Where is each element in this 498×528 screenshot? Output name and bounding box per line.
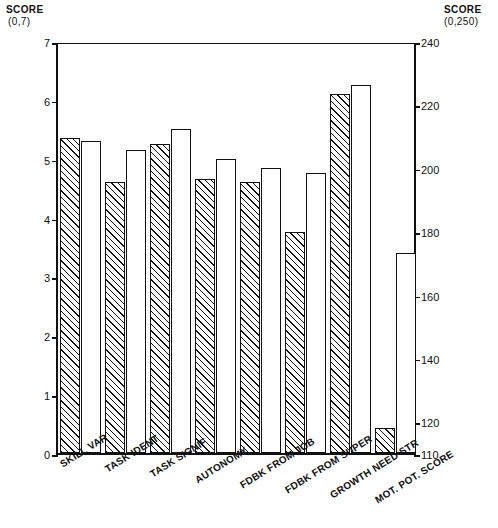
right-axis-title-text: SCORE (444, 4, 482, 15)
bar-group (330, 44, 371, 453)
right-tick-label: 180 (421, 228, 451, 239)
left-tick-label: 5 (28, 156, 50, 167)
right-tick-label: 140 (421, 355, 451, 366)
right-axis-range-label: (0,250) (444, 16, 482, 28)
right-tick-label: 220 (421, 101, 451, 112)
bar (396, 253, 416, 453)
bar (150, 144, 170, 453)
bar (261, 168, 281, 453)
bar-group (375, 44, 416, 453)
left-tick-label: 1 (28, 391, 50, 402)
bar (126, 150, 146, 453)
right-tick-mark (414, 455, 420, 457)
bar-group (240, 44, 281, 453)
right-tick-label: 200 (421, 165, 451, 176)
bar (285, 232, 305, 453)
bar (306, 173, 326, 453)
left-axis-title: SCORE (0,7) (6, 4, 44, 28)
bar (351, 85, 371, 453)
bar-group (285, 44, 326, 453)
chart-figure: SCORE (0,7) SCORE (0,250) 01234567 11012… (0, 0, 498, 528)
bar-series-container (58, 44, 414, 453)
plot-area: 01234567 110120140160180200220240 (56, 43, 416, 455)
bar (216, 159, 236, 453)
left-tick-label: 7 (28, 38, 50, 49)
left-tick-label: 3 (28, 273, 50, 284)
bar (60, 138, 80, 453)
bar (375, 428, 395, 453)
bar (330, 94, 350, 453)
bar (195, 179, 215, 453)
bar-group (60, 44, 101, 453)
bar (105, 182, 125, 453)
right-tick-label: 160 (421, 292, 451, 303)
bar-group (195, 44, 236, 453)
left-axis-range-label: (0,7) (6, 16, 44, 28)
left-axis-title-text: SCORE (6, 4, 44, 15)
right-tick-label: 120 (421, 418, 451, 429)
right-tick-label: 240 (421, 38, 451, 49)
bar (171, 129, 191, 453)
left-tick-label: 6 (28, 97, 50, 108)
x-axis-labels: SKILL VARTASK IDENTTASK SIGNIFAUTONOMYFD… (0, 458, 498, 528)
left-tick-label: 2 (28, 332, 50, 343)
bar-group (105, 44, 146, 453)
left-tick-label: 4 (28, 215, 50, 226)
right-axis-title: SCORE (0,250) (444, 4, 482, 28)
left-tick-mark (52, 455, 58, 457)
bar (240, 182, 260, 453)
bar (81, 141, 101, 453)
bar-group (150, 44, 191, 453)
